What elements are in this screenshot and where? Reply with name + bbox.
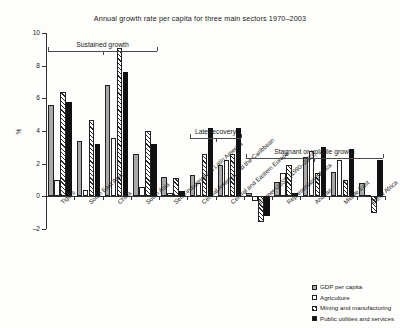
legend-swatch-icon bbox=[312, 316, 317, 321]
legend-swatch-icon bbox=[312, 295, 317, 300]
y-tick-label: 10 bbox=[33, 30, 40, 37]
legend-label: Public utilities and services bbox=[320, 314, 394, 325]
x-tick bbox=[244, 196, 245, 200]
x-tick bbox=[74, 196, 75, 200]
bar bbox=[48, 105, 53, 196]
y-tick-label: 4 bbox=[36, 128, 40, 135]
x-tick bbox=[385, 196, 386, 200]
y-tick bbox=[42, 66, 46, 67]
y-tick bbox=[42, 98, 46, 99]
x-tick bbox=[300, 196, 301, 200]
bar bbox=[111, 138, 116, 197]
bar bbox=[337, 160, 342, 196]
bar bbox=[139, 187, 144, 197]
y-tick-label: 0 bbox=[36, 193, 40, 200]
legend-label: Mining and manufacturing bbox=[320, 303, 391, 314]
x-tick bbox=[329, 196, 330, 200]
legend-swatch-icon bbox=[312, 285, 317, 290]
annotation-label: Late recovery bbox=[146, 128, 286, 135]
legend-item[interactable]: Public utilities and services bbox=[312, 314, 394, 325]
legend-label: GDP per capita bbox=[320, 282, 362, 293]
bar bbox=[77, 141, 82, 197]
bar bbox=[89, 120, 94, 197]
y-axis-label: % bbox=[15, 129, 22, 135]
bar bbox=[145, 131, 150, 196]
bar bbox=[60, 92, 65, 197]
bar bbox=[123, 72, 128, 196]
legend-item[interactable]: GDP per capita bbox=[312, 282, 394, 293]
legend-item[interactable]: Mining and manufacturing bbox=[312, 303, 394, 314]
y-tick-label: –2 bbox=[33, 226, 40, 233]
y-tick bbox=[42, 164, 46, 165]
x-tick bbox=[216, 196, 217, 200]
bar bbox=[66, 102, 71, 197]
legend-label: Agriculture bbox=[320, 293, 350, 304]
chart-title: Annual growth rate per capita for three … bbox=[0, 14, 400, 23]
y-tick bbox=[42, 131, 46, 132]
y-tick-label: 6 bbox=[36, 95, 40, 102]
bar bbox=[167, 193, 172, 196]
y-tick bbox=[42, 33, 46, 34]
legend-swatch-icon bbox=[312, 306, 317, 311]
x-tick bbox=[272, 196, 273, 200]
x-tick bbox=[159, 196, 160, 200]
x-tick bbox=[357, 196, 358, 200]
y-tick-label: 8 bbox=[36, 62, 40, 69]
bar bbox=[331, 172, 336, 197]
bar bbox=[133, 154, 138, 196]
x-tick bbox=[131, 196, 132, 200]
bar bbox=[246, 193, 251, 196]
y-tick-label: 2 bbox=[36, 160, 40, 167]
bar bbox=[83, 190, 88, 197]
chart-root: Annual growth rate per capita for three … bbox=[0, 0, 400, 328]
y-tick bbox=[42, 229, 46, 230]
chart-legend: GDP per capitaAgricultureMining and manu… bbox=[312, 282, 394, 324]
annotation-label: Sustained growth bbox=[33, 41, 173, 48]
bar bbox=[365, 195, 370, 197]
annotation-label: Stagnant or volatile growth bbox=[244, 148, 384, 155]
x-tick bbox=[103, 196, 104, 200]
x-tick bbox=[46, 196, 47, 200]
bar bbox=[54, 180, 59, 196]
legend-item[interactable]: Agriculture bbox=[312, 293, 394, 304]
x-tick bbox=[187, 196, 188, 200]
